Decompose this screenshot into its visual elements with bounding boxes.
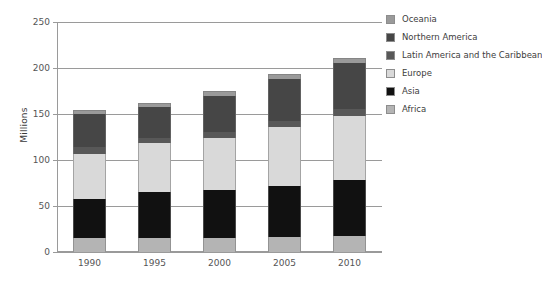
legend-swatch-icon xyxy=(386,105,395,114)
x-tick-label-1990: 1990 xyxy=(73,258,106,268)
bar-segment[interactable] xyxy=(268,127,301,186)
bar-stack xyxy=(73,110,106,252)
plot-area: 050100150200250 19901995200020052010 xyxy=(57,22,382,252)
bar-segment[interactable] xyxy=(203,238,236,252)
y-tick-label-100: 100 xyxy=(33,155,50,165)
bar-segment[interactable] xyxy=(268,186,301,238)
legend-label: Africa xyxy=(402,104,426,114)
y-tick-label-150: 150 xyxy=(33,109,50,119)
x-tick-label-2010: 2010 xyxy=(333,258,366,268)
bar-segment[interactable] xyxy=(268,79,301,121)
bar-stack xyxy=(333,58,366,252)
bars-layer: 19901995200020052010 xyxy=(57,22,382,252)
legend-item[interactable]: Northern America xyxy=(386,28,538,46)
legend-label: Europe xyxy=(402,68,432,78)
bar-segment[interactable] xyxy=(73,199,106,239)
legend-label: Latin America and the Caribbean xyxy=(402,50,542,60)
gridline-0: 0 xyxy=(57,252,382,253)
bar-segment[interactable] xyxy=(203,190,236,238)
legend-label: Asia xyxy=(402,86,420,96)
legend-label: Northern America xyxy=(402,32,478,42)
bar-group-2005[interactable]: 2005 xyxy=(268,22,301,252)
legend-swatch-icon xyxy=(386,51,395,60)
legend-label: Oceania xyxy=(402,14,437,24)
bar-segment[interactable] xyxy=(268,237,301,252)
legend-item[interactable]: Africa xyxy=(386,100,538,118)
legend-swatch-icon xyxy=(386,33,395,42)
y-axis-title: Millions xyxy=(19,85,29,165)
bar-segment[interactable] xyxy=(203,96,236,133)
bar-group-1995[interactable]: 1995 xyxy=(138,22,171,252)
bar-group-2000[interactable]: 2000 xyxy=(203,22,236,252)
bar-segment[interactable] xyxy=(138,192,171,238)
x-tick-label-2005: 2005 xyxy=(268,258,301,268)
y-tick-label-250: 250 xyxy=(33,17,50,27)
bar-segment[interactable] xyxy=(138,143,171,192)
bar-segment[interactable] xyxy=(73,114,106,147)
x-tick-label-2000: 2000 xyxy=(203,258,236,268)
bar-segment[interactable] xyxy=(73,154,106,199)
bar-group-2010[interactable]: 2010 xyxy=(333,22,366,252)
bar-segment[interactable] xyxy=(138,107,171,138)
legend-swatch-icon xyxy=(386,69,395,78)
legend-item[interactable]: Asia xyxy=(386,82,538,100)
y-tick-label-200: 200 xyxy=(33,63,50,73)
y-tick-label-0: 0 xyxy=(44,247,50,257)
bar-segment[interactable] xyxy=(138,238,171,252)
bar-group-1990[interactable]: 1990 xyxy=(73,22,106,252)
bar-segment[interactable] xyxy=(333,63,366,109)
legend-item[interactable]: Europe xyxy=(386,64,538,82)
y-tick-label-50: 50 xyxy=(39,201,50,211)
legend-item[interactable]: Latin America and the Caribbean xyxy=(386,46,538,64)
legend-swatch-icon xyxy=(386,87,395,96)
x-tick-label-1995: 1995 xyxy=(138,258,171,268)
legend-swatch-icon xyxy=(386,15,395,24)
bar-segment[interactable] xyxy=(73,238,106,252)
bar-segment[interactable] xyxy=(203,138,236,190)
bar-segment[interactable] xyxy=(333,180,366,236)
bar-stack xyxy=(268,74,301,252)
chart-legend: OceaniaNorthern AmericaLatin America and… xyxy=(386,10,538,118)
bar-stack xyxy=(138,103,171,252)
bar-segment[interactable] xyxy=(333,236,366,252)
y-tick-0 xyxy=(53,252,57,253)
bar-segment[interactable] xyxy=(333,116,366,180)
legend-item[interactable]: Oceania xyxy=(386,10,538,28)
bar-stack xyxy=(203,91,236,252)
